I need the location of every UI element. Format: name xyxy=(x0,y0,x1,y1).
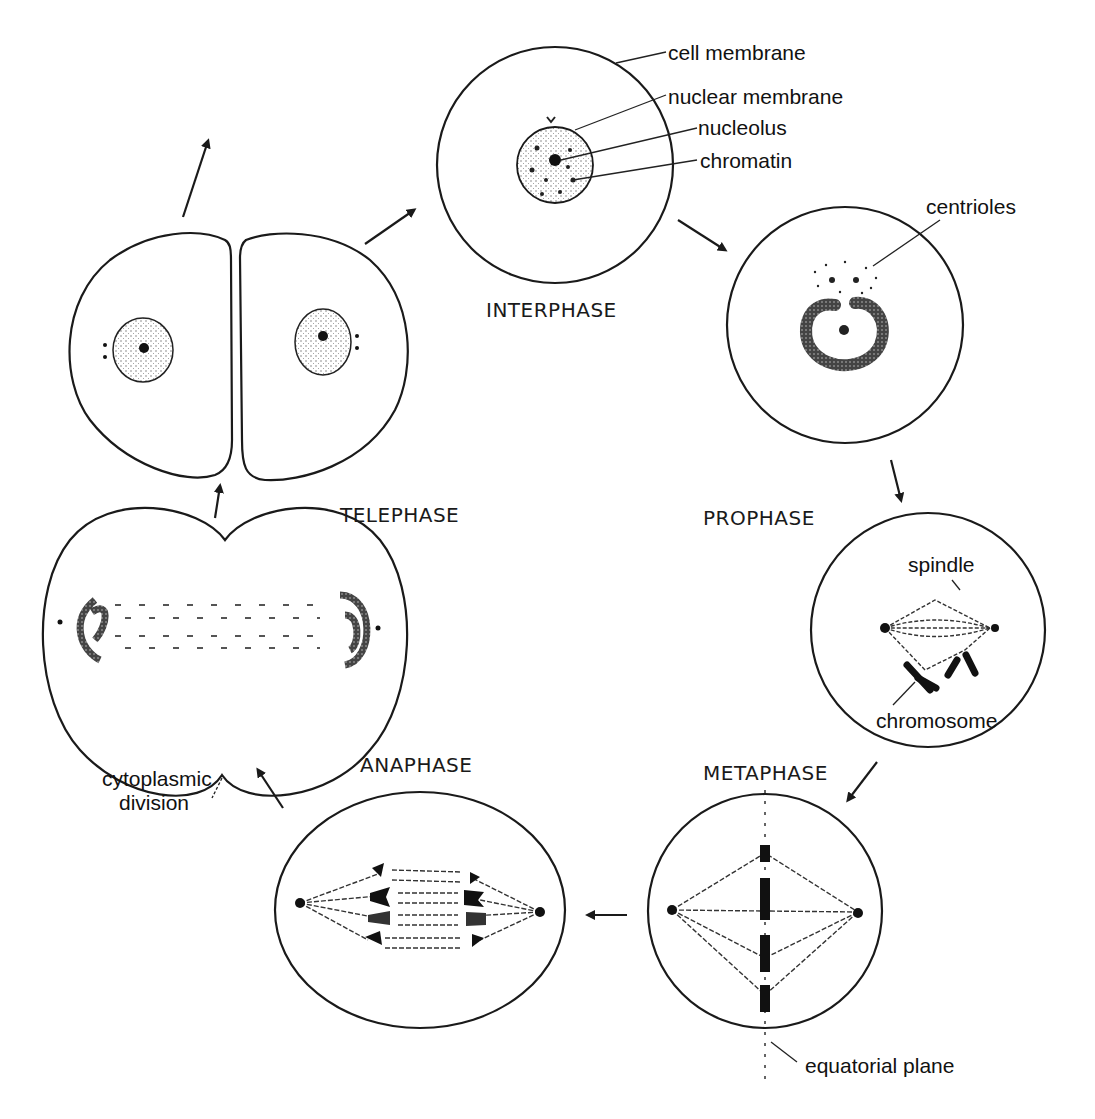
label-cytoplasmic-division-line2: division xyxy=(119,792,189,813)
arrow-to-telephase xyxy=(258,770,283,808)
arrow-to-prometaphase xyxy=(891,460,901,500)
anaphase-cell xyxy=(275,792,565,1028)
label-nuclear-membrane: nuclear membrane xyxy=(668,86,843,107)
phase-title-metaphase: METAPHASE xyxy=(703,763,828,783)
label-cytoplasmic-division-line1: cytoplasmic xyxy=(102,768,212,789)
daughter-cells xyxy=(70,233,408,480)
arrow-daughter-up xyxy=(183,141,208,217)
phase-title-prophase: PROPHASE xyxy=(703,508,815,528)
arrow-to-metaphase xyxy=(848,762,877,800)
label-centrioles: centrioles xyxy=(926,196,1016,217)
label-nucleolus: nucleolus xyxy=(698,117,787,138)
label-chromatin: chromatin xyxy=(700,150,792,171)
telephase-cell xyxy=(43,508,407,798)
label-chromosome: chromosome xyxy=(876,710,997,731)
mitosis-diagram: INTERPHASE PROPHASE METAPHASE ANAPHASE T… xyxy=(0,0,1095,1119)
label-spindle: spindle xyxy=(908,554,975,575)
arrow-to-prophase xyxy=(678,220,725,250)
label-equatorial-plane: equatorial plane xyxy=(805,1055,954,1076)
prophase-cell xyxy=(727,207,963,443)
centriole-pair xyxy=(547,117,555,122)
interphase-cell xyxy=(437,47,697,283)
nucleolus-dot xyxy=(549,154,561,166)
metaphase-cell xyxy=(648,790,882,1080)
label-cell-membrane: cell membrane xyxy=(668,42,806,63)
right-daughter-chromatin xyxy=(340,595,367,665)
phase-title-telephase: TELEPHASE xyxy=(340,505,459,525)
left-daughter-chromatin xyxy=(80,600,105,660)
phase-title-anaphase: ANAPHASE xyxy=(360,755,472,775)
arrow-to-daughters xyxy=(215,486,220,518)
arrow-to-interphase xyxy=(365,210,414,244)
phase-title-interphase: INTERPHASE xyxy=(486,300,617,320)
